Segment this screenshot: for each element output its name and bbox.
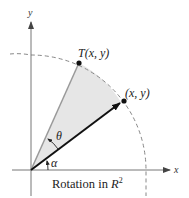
caption-text: Rotation in	[52, 177, 111, 191]
diagram-canvas	[0, 0, 189, 198]
rotated-point-label: T(x, y)	[78, 47, 109, 59]
rotation-diagram: y x T(x, y) (x, y) θ α Rotation in R2	[0, 0, 189, 198]
alpha-arc-icon	[47, 161, 48, 170]
caption-superscript: 2	[119, 176, 123, 185]
x-axis-label: x	[174, 165, 178, 175]
rotated-point	[76, 60, 81, 65]
alpha-label: α	[51, 157, 57, 169]
rotation-wedge	[31, 63, 121, 170]
theta-label: θ	[56, 130, 62, 142]
original-point-label: (x, y)	[125, 87, 150, 99]
transform-symbol: T	[78, 46, 85, 60]
y-axis-label: y	[28, 8, 32, 18]
caption: Rotation in R2	[52, 177, 123, 191]
rotated-point-args: (x, y)	[85, 46, 110, 60]
caption-symbol: R	[111, 177, 119, 191]
